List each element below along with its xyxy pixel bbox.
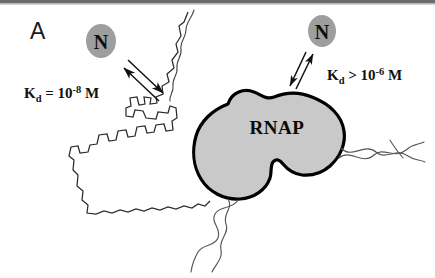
kd-right-unit: M: [384, 67, 402, 83]
rnap-label: RNAP: [250, 117, 305, 138]
kd-left-symbol: K: [24, 85, 36, 101]
kd-label-left: Kd = 10-8 M: [24, 84, 99, 104]
kd-right-symbol: K: [327, 67, 339, 83]
n-protein-left-label: N: [94, 31, 109, 53]
n-protein-right-label: N: [315, 21, 330, 43]
kd-label-right: Kd > 10-6 M: [327, 66, 402, 86]
kd-left-relation: = 10: [42, 85, 73, 101]
panel-letter: A: [30, 18, 46, 44]
kd-right-exponent: -6: [376, 66, 385, 77]
kd-left-exponent: -8: [73, 84, 82, 95]
kd-left-unit: M: [81, 85, 99, 101]
top-border-highlight: [0, 4, 435, 5]
figure-panel-a: RNAP N N A Kd = 10-8 M Kd > 10-6 M: [0, 0, 435, 278]
kd-right-relation: > 10: [345, 67, 376, 83]
top-border-band: [0, 0, 435, 4]
